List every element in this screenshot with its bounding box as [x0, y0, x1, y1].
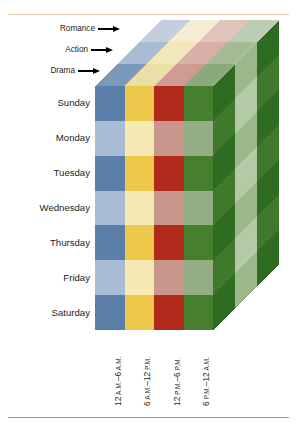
time-dash: – — [172, 377, 182, 382]
time-dash: – — [113, 376, 123, 381]
time-meridiem: A.M. — [144, 386, 151, 402]
time-num: 12 — [142, 372, 152, 381]
time-label-1: 6 A.M.–12 P.M. — [143, 357, 152, 406]
time-num: 12 — [201, 372, 211, 381]
time-meridiem: P.M. — [144, 357, 151, 372]
time-dash: – — [142, 381, 152, 386]
time-label-0: 12 A.M.–6 A.M. — [114, 356, 123, 406]
time-num: 6 — [113, 372, 123, 377]
time-label-2: 12 P.M.–6 P.M. — [173, 357, 182, 406]
time-num: 6 — [142, 401, 152, 406]
time-meridiem: A.M. — [115, 381, 122, 397]
time-axis-labels: 12 A.M.–6 A.M.6 A.M.–12 P.M.12 P.M.–6 P.… — [0, 0, 297, 432]
time-meridiem: P.M. — [174, 357, 181, 372]
time-num: 6 — [201, 401, 211, 406]
time-meridiem: A.M. — [115, 356, 122, 372]
time-meridiem: P.M. — [203, 386, 210, 401]
time-num: 6 — [172, 372, 182, 377]
time-num: 12 — [172, 397, 182, 406]
time-num: 12 — [113, 397, 123, 406]
time-dash: – — [201, 382, 211, 387]
time-meridiem: A.M. — [203, 357, 210, 373]
time-meridiem: P.M. — [174, 382, 181, 397]
data-cube-figure: Romance Action Drama SundayMondayTuesday… — [0, 0, 297, 432]
time-label-3: 6 P.M.–12 A.M. — [202, 357, 211, 406]
